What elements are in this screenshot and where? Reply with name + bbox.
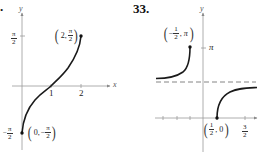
right-y-axis-label: y bbox=[200, 5, 204, 13]
left-y-axis-label: y bbox=[19, 5, 23, 13]
left-point-top bbox=[79, 34, 82, 37]
left-y-tick-pi-half: π2 bbox=[11, 29, 17, 46]
right-x-tick-three-halves: 32 bbox=[242, 122, 248, 139]
right-point-top bbox=[188, 45, 191, 48]
right-point-bottom-label: (12, 0) bbox=[203, 121, 230, 138]
left-y-tick-neg-pi-half: −π2 bbox=[3, 126, 13, 141]
left-point-bottom-label: (0, −π2) bbox=[27, 124, 56, 141]
right-right-branch bbox=[217, 88, 257, 119]
right-point-top-label: (−12, π) bbox=[163, 25, 194, 42]
right-left-branch bbox=[156, 47, 190, 79]
left-x-tick-1: 1 bbox=[49, 89, 54, 98]
right-problem-number: 33. bbox=[133, 2, 149, 15]
right-y-tick-pi: π bbox=[209, 43, 214, 52]
left-x-tick-2: 2 bbox=[79, 89, 84, 98]
left-problem-number: . bbox=[0, 0, 3, 13]
right-point-bottom bbox=[215, 116, 218, 119]
left-x-axis-label: x bbox=[113, 81, 117, 89]
left-curve bbox=[22, 36, 81, 133]
left-point-top-label: (2, π2) bbox=[54, 27, 79, 44]
left-point-bottom bbox=[20, 131, 23, 134]
